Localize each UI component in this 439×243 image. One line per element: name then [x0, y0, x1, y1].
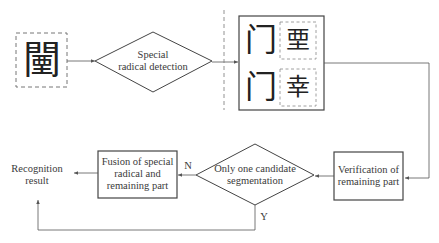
fusion-label-line3: remaining part — [98, 180, 177, 192]
detection-label-line2: radical detection — [103, 61, 203, 73]
decision-label-line2: segmentation — [205, 175, 305, 187]
radical-glyph-2: 门 — [243, 67, 279, 107]
edge-label-yes: Y — [259, 211, 269, 223]
decision-label-line1: Only one candidate — [205, 163, 305, 175]
fusion-label-line2: radical and — [98, 168, 177, 180]
result-label: Recognition result — [4, 163, 70, 187]
verification-label-line2: remaining part — [334, 176, 403, 188]
fusion-label: Fusion of special radical and remaining … — [98, 156, 177, 192]
decision-label: Only one candidate segmentation — [205, 163, 305, 187]
fusion-label-line1: Fusion of special — [98, 156, 177, 168]
detection-label-line1: Special — [103, 49, 203, 61]
result-label-line2: result — [4, 175, 70, 187]
verification-label-line1: Verification of — [334, 164, 403, 176]
edge-label-no: N — [183, 160, 193, 172]
remaining-glyph-1: 垔 — [281, 25, 315, 55]
radical-glyph-1: 门 — [243, 20, 279, 60]
detection-label: Special radical detection — [103, 49, 203, 73]
result-label-line1: Recognition — [4, 163, 70, 175]
edge-decision-yes — [38, 200, 255, 230]
input-character: 闉 — [18, 36, 66, 84]
verification-label: Verification of remaining part — [334, 164, 403, 188]
remaining-glyph-2: 幸 — [281, 72, 315, 102]
